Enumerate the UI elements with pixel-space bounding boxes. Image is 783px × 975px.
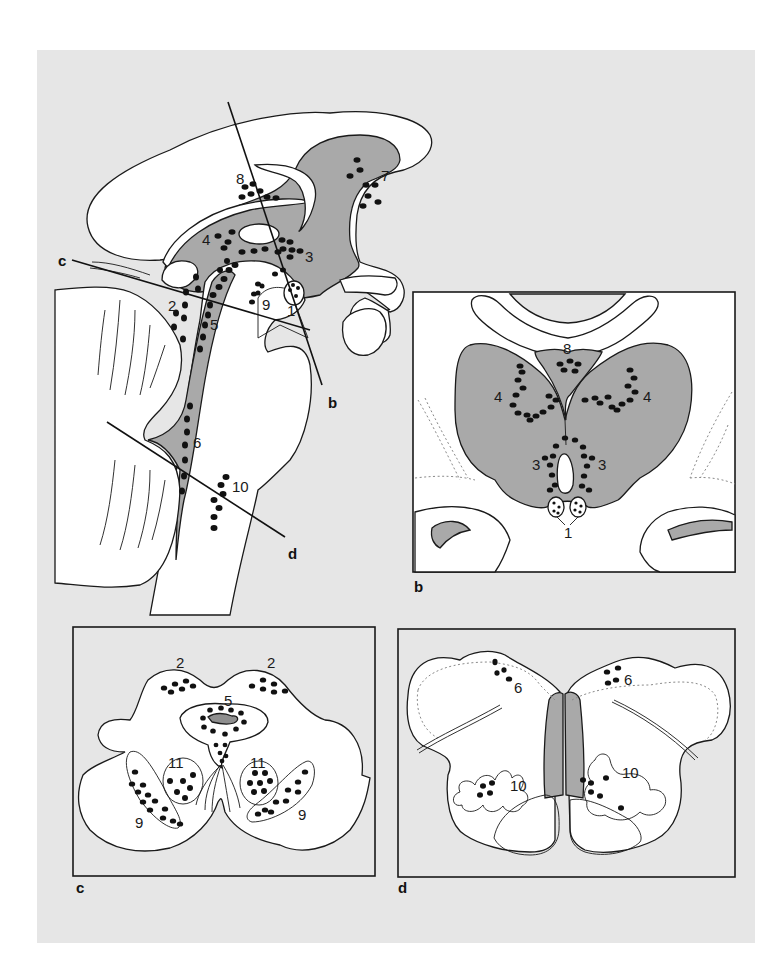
panel-b-label-3-left: 3 xyxy=(532,456,540,473)
panel-d-label-6-left: 6 xyxy=(514,679,522,696)
pituitary xyxy=(343,309,386,356)
label-7: 7 xyxy=(381,167,389,184)
panel-b-label-8: 8 xyxy=(563,340,571,357)
label-9: 9 xyxy=(262,296,270,313)
panel-d-label-6-right: 6 xyxy=(624,671,632,688)
label-1: 1 xyxy=(287,302,295,319)
panel-b: 8 4 4 3 3 1 b xyxy=(413,292,735,595)
panel-c-label-5: 5 xyxy=(224,692,232,709)
panel-b-label-4-left: 4 xyxy=(494,388,502,405)
panel-c-label-11-left: 11 xyxy=(168,754,184,771)
label-8: 8 xyxy=(236,170,244,187)
label-4: 4 xyxy=(202,231,210,248)
label-5: 5 xyxy=(210,316,218,333)
panel-b-letter: b xyxy=(414,578,423,595)
cut-label-c: c xyxy=(58,252,66,269)
cut-label-d: d xyxy=(288,545,297,562)
panel-b-label-3-right: 3 xyxy=(598,456,606,473)
interthalamic-adhesion xyxy=(239,224,279,244)
panel-d: 6 6 10 10 d xyxy=(398,629,735,896)
panel-c-label-9-right: 9 xyxy=(298,806,306,823)
label-3: 3 xyxy=(305,248,313,265)
cut-label-b: b xyxy=(328,394,337,411)
panel-d-label-10-left: 10 xyxy=(510,777,527,794)
optic-chiasm xyxy=(340,276,397,295)
label-6: 6 xyxy=(193,434,201,451)
panel-c-label-2-left: 2 xyxy=(176,654,184,671)
panel-b-label-4-right: 4 xyxy=(643,388,651,405)
panel-d-label-10-right: 10 xyxy=(622,764,639,781)
panel-b-mammillary-right xyxy=(570,497,586,517)
panel-d-raphe-right xyxy=(565,692,584,798)
panel-c-label-2-right: 2 xyxy=(267,654,275,671)
panel-b-label-1: 1 xyxy=(564,524,572,541)
panel-d-letter: d xyxy=(398,879,407,896)
panel-c-letter: c xyxy=(76,879,84,896)
label-2: 2 xyxy=(168,297,176,314)
panel-c-label-9-left: 9 xyxy=(135,814,143,831)
brainstem-nuclei-diagram: b c d xyxy=(0,0,783,975)
label-10: 10 xyxy=(232,478,249,495)
panel-c: 2 2 5 11 11 9 9 c xyxy=(73,627,375,896)
panel-c-label-11-right: 11 xyxy=(250,754,266,771)
panel-b-mammillary-left xyxy=(548,497,564,517)
